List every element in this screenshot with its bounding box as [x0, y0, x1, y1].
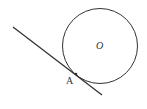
point-label: A [66, 75, 74, 86]
diagram-svg: O A [0, 0, 147, 109]
center-label: O [96, 40, 103, 51]
tangent-point-a [75, 73, 78, 76]
geometry-diagram: O A [0, 0, 147, 109]
tangent-line [13, 27, 102, 95]
